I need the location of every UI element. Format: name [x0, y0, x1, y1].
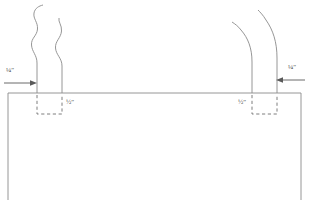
- diagram-linework: [0, 0, 310, 200]
- right-stitch-lines: [232, 10, 277, 93]
- fabric-panel-outline: [8, 93, 301, 200]
- left-stitch-lines: [31, 5, 62, 93]
- left-outer-stitch-line: [31, 5, 43, 93]
- left-edge-dimension-label: ¼″: [6, 67, 14, 74]
- right-fold-allowance-box: [252, 95, 277, 114]
- right-dimension-arrow: [276, 77, 305, 83]
- right-box-dimension-label: ½″: [238, 99, 246, 106]
- left-fold-allowance-box: [37, 95, 62, 114]
- right-edge-dimension-label: ¼″: [288, 64, 296, 71]
- diagram-canvas: ¼″ ¼″ ½″ ½″: [0, 0, 310, 200]
- right-inner-stitch-line: [258, 10, 277, 93]
- left-inner-stitch-line: [55, 18, 62, 93]
- right-outer-stitch-line: [232, 22, 252, 93]
- left-dimension-arrow: [4, 80, 37, 86]
- left-box-dimension-label: ½″: [66, 99, 74, 106]
